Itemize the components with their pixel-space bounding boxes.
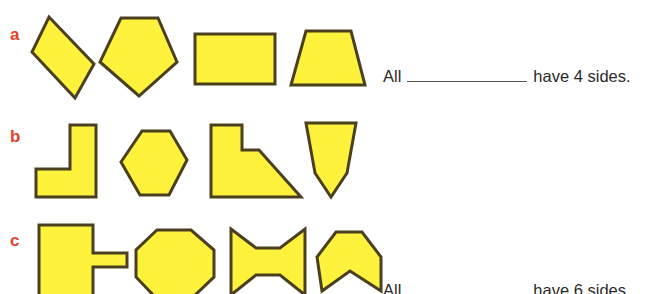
row-label-c: c [10, 232, 19, 249]
shape-stepped-diagonal [208, 122, 304, 200]
shape-pentagon-point-down [97, 14, 181, 99]
shape-l-shape [33, 122, 99, 200]
shape-downward-arrow-pennant [303, 120, 359, 200]
shape-hexagon [118, 128, 190, 198]
shape-chevron-arrow-up [314, 229, 384, 294]
sentence-lead-a: All [383, 68, 401, 85]
worksheet-page: a Allhave 4 sides. b [0, 0, 652, 294]
worksheet-row-b: b Allhave 6 sides. [0, 110, 652, 212]
sentence-trail-a: have 4 sides. [533, 68, 630, 85]
shape-bowtie [228, 226, 308, 294]
shape-rectangle-with-tab [36, 222, 132, 294]
shape-octagon [133, 227, 217, 294]
shape-tilted-rectangle [28, 14, 100, 102]
worksheet-row-c: c Allhave 8 sides. [0, 212, 652, 294]
worksheet-row-a: a Allhave 4 sides. [0, 0, 652, 110]
shape-trapezoid [288, 28, 368, 88]
shape-rectangle [192, 31, 278, 87]
answer-blank-a[interactable] [407, 68, 527, 82]
row-label-b: b [10, 128, 20, 145]
row-label-a: a [10, 26, 19, 43]
sentence-row-a: Allhave 4 sides. [383, 68, 631, 85]
